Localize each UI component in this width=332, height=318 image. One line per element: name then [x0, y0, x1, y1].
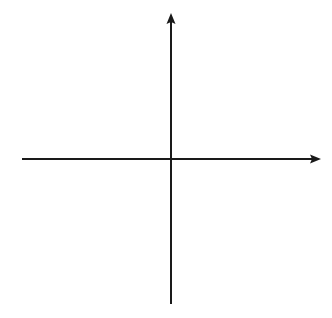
coordinate-axes-diagram: [0, 0, 332, 318]
